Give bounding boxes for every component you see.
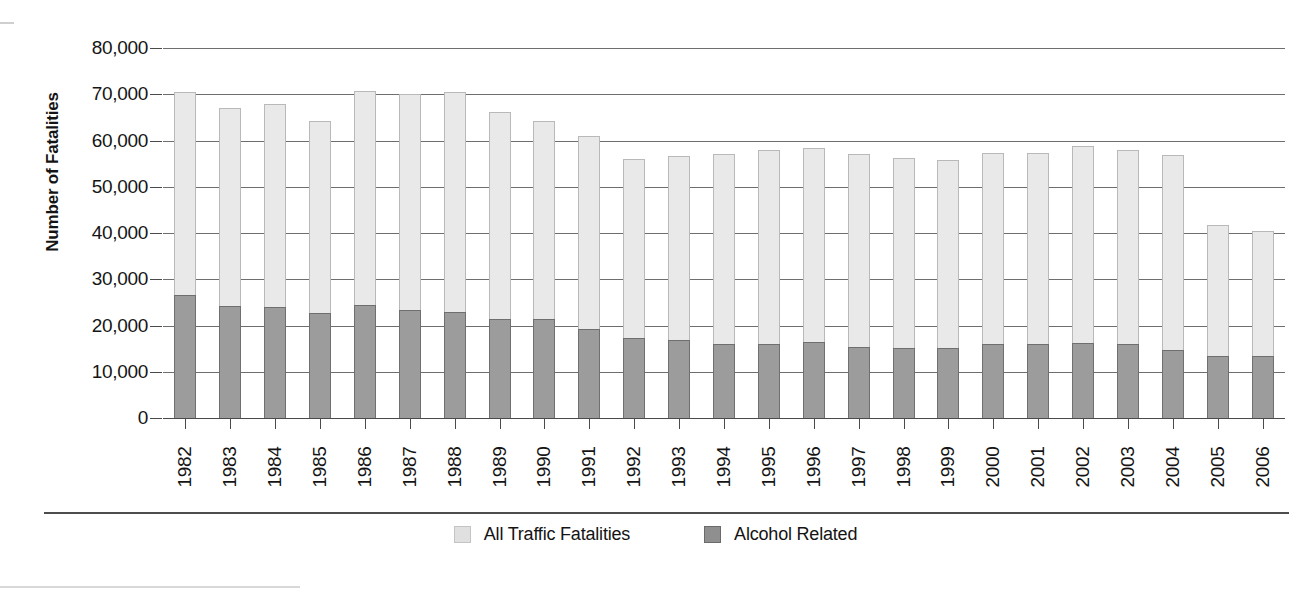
bar-group	[1252, 48, 1274, 418]
fatalities-stacked-bar-chart: Number of Fatalities 010,00020,00030,000…	[0, 0, 1311, 593]
x-tick-label: 2001	[1027, 432, 1049, 502]
x-tick-label: 1990	[533, 432, 555, 502]
bar-group	[264, 48, 286, 418]
y-tick-mark	[150, 372, 162, 373]
x-axis-tick-marks	[163, 418, 1285, 430]
bar-segment-alcohol-related	[713, 344, 735, 418]
bar-group	[982, 48, 1004, 418]
x-tick-label: 1983	[219, 432, 241, 502]
legend-item: All Traffic Fatalities	[454, 524, 630, 545]
x-tick-label: 1986	[354, 432, 376, 502]
y-tick-label: 10,000	[40, 361, 148, 383]
scan-artifact-left	[0, 22, 14, 24]
y-tick-mark	[150, 94, 162, 95]
bar-segment-alcohol-related	[1162, 350, 1184, 418]
x-tick-mark	[634, 418, 635, 429]
bar-group	[1162, 48, 1184, 418]
bar-group	[848, 48, 870, 418]
bar-segment-alcohol-related	[1072, 343, 1094, 418]
x-tick-label: 1997	[848, 432, 870, 502]
x-tick-label: 1982	[174, 432, 196, 502]
bar-group	[1027, 48, 1049, 418]
legend-label: Alcohol Related	[734, 524, 857, 545]
x-tick-mark	[275, 418, 276, 429]
x-tick-label: 1992	[623, 432, 645, 502]
chart-legend: All Traffic FatalitiesAlcohol Related	[0, 524, 1311, 545]
x-tick-label: 2006	[1252, 432, 1274, 502]
x-tick-mark	[365, 418, 366, 429]
y-tick-mark	[150, 233, 162, 234]
bar-segment-alcohol-related	[578, 329, 600, 418]
bar-group	[1072, 48, 1094, 418]
x-tick-mark	[410, 418, 411, 429]
y-tick-label: 80,000	[40, 37, 148, 59]
x-tick-label: 2000	[982, 432, 1004, 502]
x-tick-mark	[185, 418, 186, 429]
bar-segment-alcohol-related	[399, 310, 421, 418]
bar-group	[937, 48, 959, 418]
x-tick-label: 1993	[668, 432, 690, 502]
legend-separator	[44, 512, 1289, 514]
x-tick-mark	[1218, 418, 1219, 429]
y-tick-mark	[150, 141, 162, 142]
legend-swatch-total	[454, 526, 471, 543]
x-tick-label: 1985	[309, 432, 331, 502]
bar-group	[758, 48, 780, 418]
y-tick-label: 30,000	[40, 268, 148, 290]
bar-group	[623, 48, 645, 418]
bar-segment-alcohol-related	[893, 348, 915, 418]
bar-segment-alcohol-related	[1252, 356, 1274, 418]
y-tick-label: 0	[40, 407, 148, 429]
bar-segment-alcohol-related	[803, 342, 825, 418]
bar-segment-alcohol-related	[1117, 344, 1139, 418]
bar-group	[444, 48, 466, 418]
x-tick-mark	[544, 418, 545, 429]
x-tick-mark	[1038, 418, 1039, 429]
bar-segment-alcohol-related	[533, 319, 555, 418]
bar-segment-alcohol-related	[982, 344, 1004, 418]
x-tick-mark	[904, 418, 905, 429]
x-tick-mark	[1128, 418, 1129, 429]
bar-group	[533, 48, 555, 418]
bar-group	[309, 48, 331, 418]
legend-label: All Traffic Fatalities	[484, 524, 630, 545]
bar-segment-alcohol-related	[937, 348, 959, 418]
y-tick-label: 40,000	[40, 222, 148, 244]
x-tick-label: 1996	[803, 432, 825, 502]
y-tick-mark	[150, 48, 162, 49]
bar-segment-alcohol-related	[1207, 356, 1229, 418]
bar-segment-alcohol-related	[848, 347, 870, 418]
x-tick-label: 1994	[713, 432, 735, 502]
bar-group	[578, 48, 600, 418]
x-tick-label: 1988	[444, 432, 466, 502]
y-tick-mark	[150, 326, 162, 327]
bar-segment-alcohol-related	[174, 295, 196, 418]
x-tick-mark	[1263, 418, 1264, 429]
bar-segment-alcohol-related	[623, 338, 645, 418]
bar-group	[399, 48, 421, 418]
x-tick-label: 1991	[578, 432, 600, 502]
bar-group	[1117, 48, 1139, 418]
x-tick-mark	[769, 418, 770, 429]
y-tick-label: 50,000	[40, 176, 148, 198]
bar-segment-alcohol-related	[758, 344, 780, 418]
x-tick-label: 2005	[1207, 432, 1229, 502]
x-tick-mark	[859, 418, 860, 429]
x-tick-label: 2003	[1117, 432, 1139, 502]
bar-group	[219, 48, 241, 418]
x-tick-mark	[948, 418, 949, 429]
legend-swatch-alcohol	[704, 526, 721, 543]
bar-segment-alcohol-related	[444, 312, 466, 418]
bar-group	[1207, 48, 1229, 418]
bar-group	[489, 48, 511, 418]
bar-group	[893, 48, 915, 418]
x-tick-label: 1989	[489, 432, 511, 502]
bar-segment-alcohol-related	[668, 340, 690, 418]
x-tick-mark	[724, 418, 725, 429]
y-tick-mark	[150, 279, 162, 280]
x-tick-mark	[679, 418, 680, 429]
x-tick-label: 1995	[758, 432, 780, 502]
y-tick-label: 70,000	[40, 83, 148, 105]
y-axis-tick-labels: 010,00020,00030,00040,00050,00060,00070,…	[32, 0, 148, 593]
y-tick-label: 60,000	[40, 130, 148, 152]
